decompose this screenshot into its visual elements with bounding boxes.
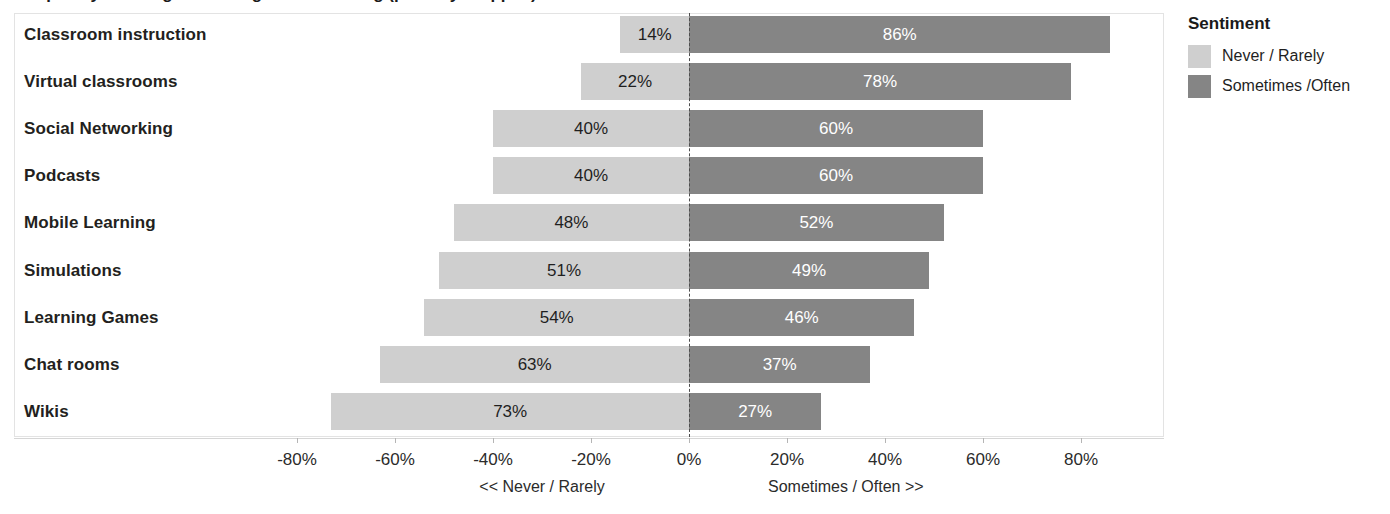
legend-item-sometimes-often[interactable]: Sometimes /Often bbox=[1188, 71, 1388, 101]
bar-value-label-left: 40% bbox=[493, 157, 689, 194]
chart-canvas: Frequency of Using Technologies in Teach… bbox=[0, 0, 1390, 514]
x-axis-tick-label: 80% bbox=[1064, 450, 1098, 470]
bar-value-label-left: 73% bbox=[331, 393, 689, 430]
bar-value-label-right: 86% bbox=[689, 16, 1110, 53]
bar-value-label-right: 52% bbox=[689, 204, 944, 241]
bar-value-label-left: 40% bbox=[493, 110, 689, 147]
bar-value-label-right: 49% bbox=[689, 252, 929, 289]
x-axis-tick-label: 60% bbox=[966, 450, 1000, 470]
category-label: Mobile Learning bbox=[24, 204, 156, 241]
bar-value-label-right: 78% bbox=[689, 63, 1071, 100]
x-axis-tick bbox=[983, 438, 984, 443]
bar-row: Podcasts40%60% bbox=[0, 157, 1390, 194]
x-axis-tick-label: 0% bbox=[677, 450, 702, 470]
bar-value-label-left: 63% bbox=[380, 346, 689, 383]
bar-value-label-left: 48% bbox=[454, 204, 689, 241]
legend-item-never-rarely[interactable]: Never / Rarely bbox=[1188, 41, 1388, 71]
legend: Sentiment Never / Rarely Sometimes /Ofte… bbox=[1188, 14, 1388, 101]
category-label: Social Networking bbox=[24, 110, 173, 147]
bar-value-label-right: 37% bbox=[689, 346, 870, 383]
axis-caption-right: Sometimes / Often >> bbox=[768, 478, 924, 496]
legend-swatch-icon bbox=[1188, 75, 1211, 98]
x-axis-tick bbox=[297, 438, 298, 443]
bar-value-label-left: 51% bbox=[439, 252, 689, 289]
x-axis-tick-label: -20% bbox=[571, 450, 611, 470]
category-label: Learning Games bbox=[24, 299, 159, 336]
category-label: Chat rooms bbox=[24, 346, 119, 383]
legend-item-label: Sometimes /Often bbox=[1222, 77, 1350, 95]
x-axis-tick-label: -80% bbox=[277, 450, 317, 470]
bars-layer: Classroom instruction14%86%Virtual class… bbox=[0, 0, 1390, 514]
bar-row: Virtual classrooms22%78% bbox=[0, 63, 1390, 100]
x-axis-tick bbox=[395, 438, 396, 443]
x-axis-tick bbox=[689, 438, 690, 443]
x-axis-tick-label: -40% bbox=[473, 450, 513, 470]
bar-value-label-left: 22% bbox=[581, 63, 689, 100]
bar-row: Wikis73%27% bbox=[0, 393, 1390, 430]
category-label: Simulations bbox=[24, 252, 121, 289]
bar-row: Social Networking40%60% bbox=[0, 110, 1390, 147]
legend-title: Sentiment bbox=[1188, 14, 1388, 34]
x-axis-tick bbox=[885, 438, 886, 443]
legend-swatch-icon bbox=[1188, 45, 1211, 68]
category-label: Wikis bbox=[24, 393, 69, 430]
x-axis-tick-label: 20% bbox=[770, 450, 804, 470]
category-label: Virtual classrooms bbox=[24, 63, 178, 100]
bar-row: Chat rooms63%37% bbox=[0, 346, 1390, 383]
bar-value-label-left: 14% bbox=[620, 16, 689, 53]
axis-caption-left: << Never / Rarely bbox=[479, 478, 604, 496]
x-axis-tick bbox=[591, 438, 592, 443]
zero-reference-line bbox=[689, 13, 690, 437]
bar-value-label-right: 46% bbox=[689, 299, 914, 336]
bar-row: Mobile Learning48%52% bbox=[0, 204, 1390, 241]
x-axis-tick bbox=[787, 438, 788, 443]
x-axis-line bbox=[14, 438, 1164, 439]
x-axis-tick bbox=[1081, 438, 1082, 443]
bar-value-label-right: 60% bbox=[689, 110, 983, 147]
x-axis-tick bbox=[493, 438, 494, 443]
category-label: Classroom instruction bbox=[24, 16, 207, 53]
category-label: Podcasts bbox=[24, 157, 100, 194]
x-axis-tick-label: -60% bbox=[375, 450, 415, 470]
x-axis-tick-label: 40% bbox=[868, 450, 902, 470]
bar-value-label-left: 54% bbox=[424, 299, 689, 336]
bar-row: Simulations51%49% bbox=[0, 252, 1390, 289]
bar-value-label-right: 27% bbox=[689, 393, 821, 430]
legend-item-label: Never / Rarely bbox=[1222, 47, 1324, 65]
bar-value-label-right: 60% bbox=[689, 157, 983, 194]
bar-row: Classroom instruction14%86% bbox=[0, 16, 1390, 53]
bar-row: Learning Games54%46% bbox=[0, 299, 1390, 336]
